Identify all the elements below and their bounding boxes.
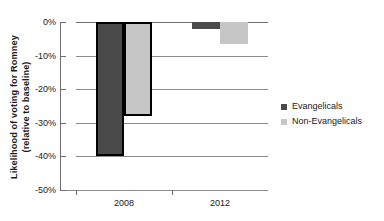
legend-item: Non-Evangelicals (281, 114, 362, 129)
legend-label: Non-Evangelicals (292, 114, 362, 129)
x-axis-tick (76, 190, 77, 195)
y-axis-tick-label: -20% (35, 84, 56, 94)
legend-label: Evangelicals (292, 99, 343, 114)
y-axis-tick (60, 56, 66, 57)
x-axis-tick-label: 2008 (114, 198, 134, 208)
y-axis-tick (60, 22, 66, 23)
bar-2008-non-evangelicals (124, 22, 152, 116)
y-axis-tick-label: -10% (35, 51, 56, 61)
y-axis-tick-label: 0% (43, 17, 56, 27)
plot-area: 0%-10%-20%-30%-40%-50% 20082012 (76, 22, 268, 190)
bar-2008-evangelicals (96, 22, 124, 156)
bar-2012-evangelicals (192, 22, 220, 29)
legend-swatch-icon (281, 104, 287, 110)
y-axis-tick (60, 89, 66, 90)
x-axis-tick (172, 190, 173, 195)
legend-item: Evangelicals (281, 99, 362, 114)
y-axis-tick-label: -30% (35, 118, 56, 128)
x-axis-line (60, 190, 268, 191)
y-axis-title-line2: (relative to baseline) (21, 7, 33, 207)
y-axis-tick (60, 190, 66, 191)
y-axis-tick-label: -50% (35, 185, 56, 195)
y-axis-tick-label: -40% (35, 151, 56, 161)
gridline (76, 156, 268, 157)
y-axis-tick (60, 156, 66, 157)
y-axis-tick (60, 123, 66, 124)
y-axis-title: Likelihood of voting for Romney (relativ… (9, 7, 39, 207)
chart-legend: EvangelicalsNon-Evangelicals (281, 99, 362, 129)
legend-swatch-icon (281, 119, 287, 125)
y-axis-line (60, 22, 61, 190)
x-axis-tick-label: 2012 (210, 198, 230, 208)
bar-chart: Likelihood of voting for Romney (relativ… (0, 0, 384, 221)
y-axis-title-line1: Likelihood of voting for Romney (9, 7, 21, 207)
bar-2012-non-evangelicals (220, 22, 248, 44)
